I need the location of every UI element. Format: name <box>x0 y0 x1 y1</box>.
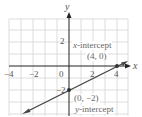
y-intercept-label: y-intercept <box>74 105 114 114</box>
y-intercept-point <box>67 88 71 92</box>
x-intercept-point <box>115 64 119 68</box>
line-arrow-bottom-icon <box>22 109 31 115</box>
tick-label-neg2y: −2 <box>56 86 66 95</box>
tick-label-neg4: −4 <box>4 70 14 79</box>
y-intercept-coords: (0, −2) <box>73 94 100 103</box>
x-axis-label: x <box>133 61 137 71</box>
tick-label-2y: 2 <box>60 37 65 46</box>
y-axis-label: y <box>65 2 69 12</box>
tick-label-neg2: −2 <box>29 70 39 79</box>
tick-label-0: 0 <box>59 70 64 79</box>
coordinate-plane <box>0 0 142 117</box>
x-intercept-label: x-intercept <box>72 41 112 50</box>
y-axis-arrow-icon <box>67 12 72 18</box>
tick-label-2x: 2 <box>90 70 95 79</box>
x-intercept-coords: (4, 0) <box>86 52 108 61</box>
tick-label-4x: 4 <box>114 70 119 79</box>
